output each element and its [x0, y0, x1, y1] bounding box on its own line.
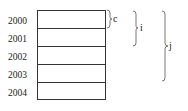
brace-label-c: c [113, 13, 117, 24]
brace-label-i: i [140, 22, 143, 33]
braces [0, 0, 188, 111]
brace-c-icon [107, 10, 112, 28]
brace-j-icon [162, 11, 168, 81]
brace-i-icon [133, 11, 138, 46]
brace-label-j: j [169, 40, 172, 51]
